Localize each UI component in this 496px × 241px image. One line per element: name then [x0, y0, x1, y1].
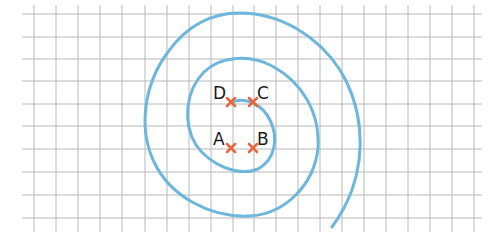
point-label: A [213, 129, 225, 149]
spiral-diagram: ABCD [0, 0, 496, 241]
point-label: D [213, 83, 226, 103]
point-label: B [257, 129, 269, 149]
point-markers: ABCD [213, 83, 269, 152]
point-a: A [213, 129, 235, 152]
grid [22, 5, 482, 232]
point-label: C [257, 83, 269, 103]
point-b: B [249, 129, 269, 152]
point-c: C [249, 83, 269, 106]
point-d: D [213, 83, 235, 106]
